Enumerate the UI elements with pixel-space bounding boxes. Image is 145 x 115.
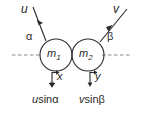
expression-angle-alpha: α xyxy=(52,93,58,105)
component-expression-vsinb: vsinβ xyxy=(79,94,105,105)
mass-label-m2-symbol: m xyxy=(79,47,88,59)
expression-angle-beta: β xyxy=(99,93,105,105)
angle-label-beta: β xyxy=(107,31,113,42)
mass-label-m1-subscript: 1 xyxy=(56,53,60,62)
mass-label-m2-subscript: 2 xyxy=(88,53,92,62)
vector-arrowhead-u xyxy=(37,20,43,26)
mass-label-m2: m2 xyxy=(79,48,93,62)
expression-function-sin-2: sin xyxy=(85,93,99,105)
vector-label-v: v xyxy=(113,3,119,15)
vector-label-u: u xyxy=(21,3,28,15)
mass-label-m1: m1 xyxy=(47,48,61,62)
mass-label-m1-symbol: m xyxy=(47,47,56,59)
component-label-x: x xyxy=(57,71,63,82)
component-label-y: y xyxy=(95,71,101,82)
expression-function-sin: sin xyxy=(38,93,52,105)
angle-label-alpha: α xyxy=(26,31,32,42)
component-expression-usina: usinα xyxy=(32,94,59,105)
component-arrowhead-x xyxy=(50,83,55,88)
diagram-canvas xyxy=(0,0,145,115)
component-arrowhead-y xyxy=(88,83,93,88)
collision-diagram: u v α β m1 m2 x y usinα vsinβ xyxy=(0,0,145,115)
